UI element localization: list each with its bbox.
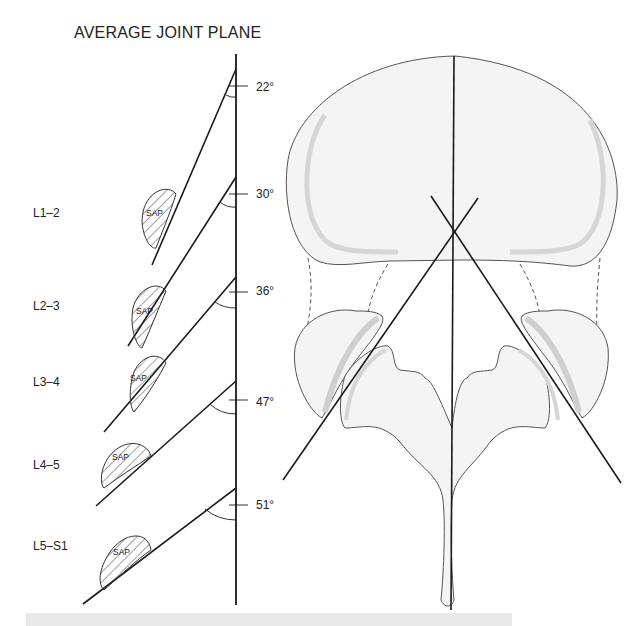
svg-text:SAP: SAP [113,547,130,557]
posterior-arch [340,346,558,606]
joint-plane-lines [83,54,248,605]
joint-plane-diagram: AVERAGE JOINT PLANE L1–2 L2–3 L3–4 L4–5 … [0,0,635,626]
svg-text:SAP: SAP [136,306,153,316]
sap-l4-5: SAP [101,444,151,489]
svg-text:SAP: SAP [146,208,163,218]
sap-l1-2: SAP [142,189,176,248]
sap-l3-4: SAP [130,356,166,412]
svg-text:SAP: SAP [112,452,129,462]
sap-l2-3: SAP [132,286,166,348]
diagram-drawing: SAP SAP SAP SAP SAP [0,0,635,626]
sap-l5-s1: SAP [100,536,151,590]
svg-text:SAP: SAP [130,373,147,383]
bottom-band [26,613,512,626]
